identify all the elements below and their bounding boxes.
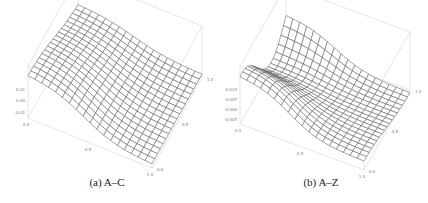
x-tick-label: 0.0: [23, 122, 30, 127]
y-tick-label: 0.0: [157, 167, 164, 172]
z-tick-label: 0.014: [226, 87, 238, 92]
y-tick-label: 0.5: [182, 122, 189, 127]
y-tick-label: 1.0: [207, 77, 214, 82]
surface-plot-b: 0.0140.0070.000-0.0070.00.51.00.00.51.0 …: [214, 0, 428, 203]
caption-b: (b) A–Z: [214, 176, 428, 188]
x-tick-label: 0.5: [85, 147, 92, 152]
surface-plot-a-svg: 0.010.00-0.010.00.51.00.00.51.0: [0, 0, 214, 180]
caption-a: (a) A–C: [0, 176, 214, 188]
surface-plot-a: 0.010.00-0.010.00.51.00.00.51.0 (a) A–C: [0, 0, 214, 203]
x-tick-label: 0.5: [297, 151, 304, 156]
surface-mesh: [240, 16, 410, 161]
surface-mesh: [28, 5, 202, 164]
z-tick-label: -0.01: [15, 110, 26, 115]
y-tick-label: 1.0: [415, 89, 422, 94]
z-tick-label: 0.01: [16, 87, 25, 92]
x-tick-label: 0.0: [235, 128, 242, 133]
z-tick-label: 0.000: [226, 107, 238, 112]
y-tick-label: 0.5: [392, 129, 399, 134]
z-tick-label: -0.007: [224, 117, 237, 122]
z-tick-label: 0.00: [16, 98, 25, 103]
y-tick-label: 0.0: [369, 169, 376, 174]
surface-plot-b-svg: 0.0140.0070.000-0.0070.00.51.00.00.51.0: [214, 0, 428, 180]
z-tick-label: 0.007: [226, 97, 238, 102]
